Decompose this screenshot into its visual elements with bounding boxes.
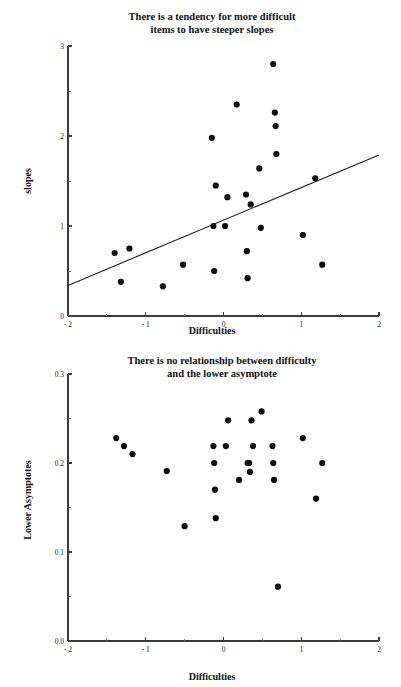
y-tick-label: 0.2: [55, 459, 65, 468]
data-point: [223, 443, 229, 449]
data-point: [250, 443, 256, 449]
chart-panel-lower-asymptotes: There is no relationship between difficu…: [0, 344, 401, 687]
chart-title-line-1: There is a tendency for more difficult: [129, 11, 296, 22]
y-axis-title: Lower Asymptotes: [22, 460, 33, 540]
data-point: [271, 477, 277, 483]
data-point: [212, 487, 218, 493]
data-point: [246, 460, 252, 466]
x-tick-label: 1: [299, 320, 303, 329]
data-point: [180, 262, 186, 268]
data-point: [236, 477, 242, 483]
data-point: [272, 123, 278, 129]
data-point: [113, 435, 119, 441]
data-point: [245, 275, 251, 281]
y-tick-label: 0.1: [55, 548, 65, 557]
x-tick-label: - 1: [142, 645, 150, 654]
figure-page: There is a tendency for more difficultit…: [0, 0, 401, 687]
data-point: [247, 469, 253, 475]
x-tick-label: - 2: [64, 320, 72, 329]
y-tick-label: 3: [60, 42, 64, 51]
chart-panel-slopes: There is a tendency for more difficultit…: [0, 0, 401, 344]
data-point: [273, 151, 279, 157]
data-point: [118, 279, 124, 285]
data-point: [112, 250, 118, 256]
chart-title-line-2: and the lower asymptote: [167, 368, 277, 379]
data-point: [160, 283, 166, 289]
scatter-chart-lower-asymptotes: There is no relationship between difficu…: [0, 344, 401, 687]
x-tick-label: 0: [222, 645, 226, 654]
data-point: [300, 232, 306, 238]
scatter-chart-slopes: There is a tendency for more difficultit…: [0, 0, 401, 344]
data-point: [258, 225, 264, 231]
y-tick-label: 0.0: [55, 637, 65, 646]
x-tick-label: - 1: [142, 320, 150, 329]
data-point: [182, 523, 188, 529]
data-point: [248, 201, 254, 207]
data-point: [213, 182, 219, 188]
data-point: [258, 408, 264, 414]
data-point: [225, 417, 231, 423]
y-tick-label: 0.3: [55, 370, 65, 379]
data-point: [244, 248, 250, 254]
x-axis-title: Difficulties: [189, 671, 236, 682]
y-tick-label: 0: [60, 312, 64, 321]
x-tick-label: - 2: [64, 645, 72, 654]
x-tick-label: 2: [377, 320, 381, 329]
data-point: [234, 101, 240, 107]
data-point: [222, 223, 228, 229]
data-point: [164, 468, 170, 474]
x-axis-title: Difficulties: [189, 325, 236, 336]
y-tick-label: 2: [60, 132, 64, 141]
y-axis-title: slopes: [22, 168, 33, 194]
data-point: [256, 165, 262, 171]
data-point: [313, 496, 319, 502]
data-point: [210, 443, 216, 449]
data-point: [129, 451, 135, 457]
data-point: [209, 135, 215, 141]
data-point: [243, 191, 249, 197]
data-point: [121, 443, 127, 449]
chart-title-line-2: items to have steeper slopes: [151, 24, 274, 35]
data-point: [270, 61, 276, 67]
data-point: [224, 194, 230, 200]
x-tick-label: 2: [377, 645, 381, 654]
y-tick-label: 1: [60, 222, 64, 231]
data-point: [269, 443, 275, 449]
data-point: [272, 110, 278, 116]
data-point: [319, 460, 325, 466]
x-tick-label: 1: [299, 645, 303, 654]
data-point: [312, 175, 318, 181]
data-point: [126, 245, 132, 251]
data-point: [211, 460, 217, 466]
chart-title-line-1: There is no relationship between difficu…: [128, 355, 318, 366]
data-point: [300, 435, 306, 441]
data-point: [213, 515, 219, 521]
data-point: [319, 262, 325, 268]
data-point: [275, 584, 281, 590]
data-point: [270, 460, 276, 466]
data-point: [211, 268, 217, 274]
regression-line: [68, 155, 379, 286]
data-point: [248, 417, 254, 423]
data-point: [210, 223, 216, 229]
